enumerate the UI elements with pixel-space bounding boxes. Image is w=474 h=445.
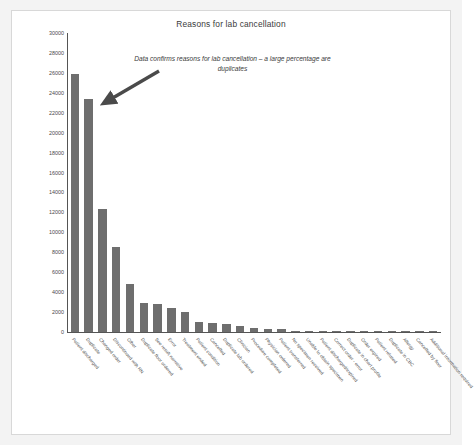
y-axis-tick-label: 28000 bbox=[20, 50, 64, 56]
y-axis-tick-label: 10000 bbox=[20, 229, 64, 235]
bar bbox=[71, 74, 80, 332]
y-axis-tick-label: 18000 bbox=[20, 150, 64, 156]
bar bbox=[112, 247, 121, 332]
y-axis-tick-label: 14000 bbox=[20, 189, 64, 195]
y-axis-tick-label: 2000 bbox=[20, 309, 64, 315]
bar bbox=[374, 331, 383, 332]
bar bbox=[429, 331, 438, 332]
bar bbox=[264, 329, 273, 332]
bar bbox=[250, 328, 259, 332]
y-axis-tick-label: 8000 bbox=[20, 249, 64, 255]
bar bbox=[332, 331, 341, 332]
bar bbox=[181, 312, 190, 332]
bar bbox=[277, 329, 286, 332]
bar bbox=[305, 331, 314, 332]
y-axis-tick-label: 6000 bbox=[20, 269, 64, 275]
bar bbox=[167, 308, 176, 332]
y-axis-tick-label: 16000 bbox=[20, 170, 64, 176]
y-axis-tick-label: 0 bbox=[20, 329, 64, 335]
bar bbox=[208, 323, 217, 332]
bar bbox=[319, 331, 328, 332]
y-axis-tick-label: 26000 bbox=[20, 70, 64, 76]
bar bbox=[415, 331, 424, 332]
y-axis-tick-label: 20000 bbox=[20, 130, 64, 136]
annotation-arrow-icon bbox=[95, 64, 170, 112]
bar bbox=[195, 322, 204, 332]
bar bbox=[140, 303, 149, 332]
y-axis-tick-label: 12000 bbox=[20, 209, 64, 215]
bar bbox=[346, 331, 355, 332]
bar bbox=[153, 304, 162, 332]
bar bbox=[401, 331, 410, 332]
bar bbox=[236, 326, 245, 332]
bar bbox=[388, 331, 397, 332]
x-axis-line bbox=[67, 332, 441, 333]
y-axis-tick-label: 4000 bbox=[20, 289, 64, 295]
y-axis-tick-label: 22000 bbox=[20, 110, 64, 116]
y-axis-tick-label: 30000 bbox=[20, 30, 64, 36]
bar bbox=[291, 331, 300, 332]
bar bbox=[222, 324, 231, 332]
y-axis-tick-label: 24000 bbox=[20, 90, 64, 96]
bar bbox=[84, 99, 93, 332]
y-axis-tick-labels: 3000028000260002400022000200001800016000… bbox=[16, 0, 64, 445]
bar bbox=[98, 209, 107, 332]
bar bbox=[126, 284, 135, 332]
chart-title: Reasons for lab cancellation bbox=[0, 19, 462, 29]
bar bbox=[360, 331, 369, 332]
